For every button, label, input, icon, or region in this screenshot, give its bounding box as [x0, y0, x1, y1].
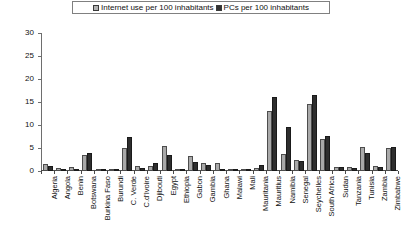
bar-group: [267, 33, 280, 171]
x-tick-mark: [107, 171, 108, 174]
bar-group: [307, 33, 320, 171]
x-tick-label-text: Ghana: [223, 176, 231, 199]
bar-pcs: [180, 169, 185, 171]
x-tick-label-text: Botswana: [90, 176, 98, 209]
x-tick-label: Zimbabwe: [394, 176, 402, 211]
bar-pcs: [325, 136, 330, 171]
x-tick-mark: [67, 171, 68, 174]
x-tick-label: Tanzania: [355, 176, 363, 206]
bar-group: [95, 33, 108, 171]
bar-group: [42, 33, 55, 171]
x-tick-label-text: Zambia: [381, 176, 389, 201]
x-tick-mark: [160, 171, 161, 174]
x-tick-label: South Africa: [328, 176, 336, 216]
x-tick-mark: [292, 171, 293, 174]
x-tick-mark: [332, 171, 333, 174]
bar-group: [254, 33, 267, 171]
x-tick-label-text: Mauritius: [275, 176, 283, 206]
bar-pcs: [352, 168, 357, 171]
bar-pcs: [87, 153, 92, 171]
bar-pcs: [272, 97, 277, 171]
x-tick-label: Namibia: [289, 176, 297, 204]
bar-chart: Internet use per 100 inhabitants PCs per…: [0, 0, 405, 241]
x-tick-label: Mauritania: [262, 176, 270, 211]
x-tick-label: Sudan: [342, 176, 350, 198]
x-tick-label: Gambia: [209, 176, 217, 202]
x-tick-label: Ghana: [223, 176, 231, 199]
bar-group: [82, 33, 95, 171]
bar-group: [201, 33, 214, 171]
x-tick-label: Burundi: [117, 176, 125, 202]
bar-pcs: [339, 167, 344, 171]
x-tick-label: Djibouti: [156, 176, 164, 201]
x-tick-label: Zambia: [381, 176, 389, 201]
bar-group: [55, 33, 68, 171]
x-tick-mark: [266, 171, 267, 174]
bars-layer: [41, 33, 398, 171]
x-tick-label-text: Seychelles: [315, 176, 323, 212]
x-tick-label-text: Benin: [77, 176, 85, 195]
x-tick-mark: [213, 171, 214, 174]
x-tick-label: Malawi: [236, 176, 244, 199]
legend-swatch-icon-pcs: [216, 5, 222, 11]
bar-group: [148, 33, 161, 171]
x-tick-mark: [319, 171, 320, 174]
x-tick-mark: [372, 171, 373, 174]
x-tick-label: Senegal: [302, 176, 310, 204]
x-tick-label: C.d'Ivoire: [143, 176, 151, 207]
bar-group: [69, 33, 82, 171]
bar-group: [122, 33, 135, 171]
x-tick-mark: [94, 171, 95, 174]
legend-item-pcs: PCs per 100 inhabitants: [216, 3, 309, 12]
x-tick-label-text: Namibia: [289, 176, 297, 204]
x-tick-label-text: Mauritania: [262, 176, 270, 211]
legend-label-internet: Internet use per 100 inhabitants: [101, 3, 214, 12]
y-tick-label: 25: [14, 52, 34, 60]
x-tick-label-text: Ethiopia: [183, 176, 191, 203]
bar-pcs: [286, 127, 291, 171]
bar-pcs: [233, 169, 238, 171]
x-tick-label: C. Verde: [130, 176, 138, 205]
x-tick-label: Ethiopia: [183, 176, 191, 203]
x-tick-label: Mauritius: [275, 176, 283, 206]
bar-group: [108, 33, 121, 171]
x-tick-label-text: Tanzania: [355, 176, 363, 206]
bar-pcs: [167, 155, 172, 171]
bar-pcs: [127, 137, 132, 172]
x-tick-label: Gabon: [196, 176, 204, 199]
x-tick-label-text: Djibouti: [156, 176, 164, 201]
y-tick-label: 0: [14, 167, 34, 175]
x-tick-label-text: C.d'Ivoire: [143, 176, 151, 207]
x-tick-mark: [345, 171, 346, 174]
x-tick-label: Seychelles: [315, 176, 323, 212]
y-tick-label: 5: [14, 144, 34, 152]
bar-pcs: [391, 147, 396, 171]
x-tick-label-text: Angola: [64, 176, 72, 199]
x-tick-mark: [81, 171, 82, 174]
bar-group: [320, 33, 333, 171]
bar-pcs: [74, 169, 79, 171]
bar-group: [360, 33, 373, 171]
bar-pcs: [153, 163, 158, 171]
x-tick-label-text: South Africa: [328, 176, 336, 216]
x-tick-label-text: Zimbabwe: [394, 176, 402, 211]
bar-group: [227, 33, 240, 171]
y-tick-label: 15: [14, 98, 34, 106]
bar-pcs: [140, 168, 145, 171]
x-tick-label: Angola: [64, 176, 72, 199]
x-tick-mark: [173, 171, 174, 174]
x-tick-mark: [279, 171, 280, 174]
bar-group: [280, 33, 293, 171]
x-tick-mark: [358, 171, 359, 174]
bar-pcs: [246, 169, 251, 171]
y-tick-label: 10: [14, 121, 34, 129]
bar-pcs: [101, 169, 106, 171]
x-tick-label: Algeria: [51, 176, 59, 199]
x-tick-mark: [134, 171, 135, 174]
bar-pcs: [378, 167, 383, 171]
bar-group: [188, 33, 201, 171]
bar-group: [174, 33, 187, 171]
x-tick-mark: [253, 171, 254, 174]
x-tick-label: Benin: [77, 176, 85, 195]
bar-pcs: [220, 169, 225, 171]
